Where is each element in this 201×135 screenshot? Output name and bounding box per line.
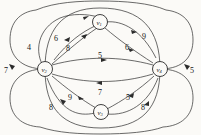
weight-label-v3-v4-outer: 8 xyxy=(141,103,145,112)
weight-label-v3-v2: 8 xyxy=(49,103,53,112)
vertex-v3[interactable]: v3 xyxy=(94,105,109,120)
edge-far-right-loop xyxy=(160,10,193,69)
weight-label-v1-v4-outer: 9 xyxy=(142,32,146,41)
weight-label-v2-v3: 9 xyxy=(68,93,72,102)
edge-far-right-loop-lower xyxy=(160,69,193,127)
weight-label-outer-left-loop: 7 xyxy=(4,66,8,75)
edge-far-left-loop xyxy=(10,10,45,69)
arrowhead-left-loop xyxy=(9,64,15,70)
graph-canvas: v1 v2 v3 v4 7 4 6 8 9 6 5 7 9 xyxy=(0,0,201,135)
edge-v2-v1-weight4 xyxy=(39,15,98,70)
vertex-v4[interactable]: v4 xyxy=(153,62,168,77)
edge-v1-v2-weight6 xyxy=(54,26,95,60)
weight-label-v2-v1-outer: 4 xyxy=(27,43,31,52)
graph-figure: v1 v2 v3 v4 7 4 6 8 9 6 5 7 9 xyxy=(0,0,201,135)
weight-label-v1-v4-inner: 6 xyxy=(125,43,129,52)
arrowhead-v1-v2 xyxy=(64,37,70,42)
arrowhead-v2-v3 xyxy=(78,96,84,100)
weight-label-outer-right-loop: 5 xyxy=(190,66,194,75)
arrowhead-v2-v1 xyxy=(81,34,87,39)
vertex-v2[interactable]: v2 xyxy=(38,62,53,77)
arrowhead-v2-v1-outer xyxy=(83,16,89,20)
weight-label-v4-v2-mid: 7 xyxy=(98,88,102,97)
weight-label-v2-v4-mid: 5 xyxy=(98,51,102,60)
weight-label-v3-v4-inner: 5 xyxy=(126,93,130,102)
edge-far-left-loop-lower xyxy=(10,69,45,127)
edge-v4-v2-weight7 xyxy=(52,74,153,82)
vertex-v1[interactable]: v1 xyxy=(93,15,108,30)
weight-label-v2-v1: 8 xyxy=(66,44,70,53)
edge-envelope-top xyxy=(36,1,166,10)
weight-label-v1-v2: 6 xyxy=(54,34,58,43)
